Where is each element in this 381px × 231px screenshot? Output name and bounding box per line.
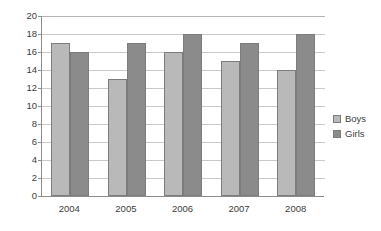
y-axis-label-2: 2 [3, 173, 37, 183]
y-tick-0 [38, 196, 42, 197]
legend-swatch-icon-boys [333, 115, 341, 123]
bar-girls-2005[interactable] [127, 43, 146, 196]
legend-swatch-icon-girls [333, 130, 341, 138]
bar-boys-2007[interactable] [221, 61, 240, 196]
bar-group-2005 [99, 16, 156, 196]
y-axis-label-16: 16 [3, 47, 37, 57]
legend-label-girls: Girls [345, 129, 365, 139]
plot-area [41, 16, 324, 197]
bar-girls-2004[interactable] [70, 52, 89, 196]
x-axis-label-2006: 2006 [154, 203, 211, 214]
bar-girls-2008[interactable] [296, 34, 315, 196]
x-axis-label-2008: 2008 [267, 203, 324, 214]
x-axis-label-2007: 2007 [211, 203, 268, 214]
y-axis-label-4: 4 [3, 155, 37, 165]
bar-boys-2008[interactable] [277, 70, 296, 196]
y-axis-label-14: 14 [3, 65, 37, 75]
legend-label-boys: Boys [345, 114, 366, 124]
x-axis-label-2004: 2004 [41, 203, 98, 214]
legend-item-boys[interactable]: Boys [333, 111, 366, 126]
bar-girls-2006[interactable] [183, 34, 202, 196]
y-axis-label-18: 18 [3, 29, 37, 39]
legend: Boys Girls [333, 111, 366, 141]
y-axis-label-8: 8 [3, 119, 37, 129]
y-axis-label-0: 0 [3, 191, 37, 201]
bar-group-2007 [212, 16, 269, 196]
x-axis-label-2005: 2005 [98, 203, 155, 214]
y-axis-label-12: 12 [3, 83, 37, 93]
y-axis-label-10: 10 [3, 101, 37, 111]
bar-group-2008 [268, 16, 325, 196]
bar-group-2004 [42, 16, 99, 196]
y-axis-label-6: 6 [3, 137, 37, 147]
bar-boys-2004[interactable] [51, 43, 70, 196]
bar-boys-2006[interactable] [164, 52, 183, 196]
y-axis-label-20: 20 [3, 11, 37, 21]
bar-chart: 20 18 16 14 12 10 8 6 4 2 0 [0, 0, 381, 231]
bar-boys-2005[interactable] [108, 79, 127, 196]
bar-group-2006 [155, 16, 212, 196]
legend-item-girls[interactable]: Girls [333, 126, 366, 141]
bar-girls-2007[interactable] [240, 43, 259, 196]
